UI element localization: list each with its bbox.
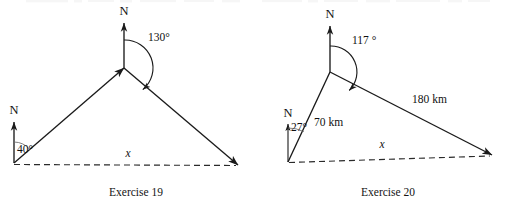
base-label-x-left: x xyxy=(124,147,131,159)
cropped-text-artifact-row xyxy=(26,0,490,2)
angle-label-117-right: 117 ° xyxy=(352,34,377,46)
caption-exercise-20: Exercise 20 xyxy=(361,186,415,198)
angle-arc-130-left xyxy=(124,40,153,90)
leg-label-70km-right: 70 km xyxy=(314,116,343,128)
diagram-canvas: N N 130° 40° x Exercise 19 N N 117 ° 27°… xyxy=(0,0,507,204)
angle-label-130-left: 130° xyxy=(148,31,170,43)
baseline-dashed-right xyxy=(289,156,490,163)
figure-pair-container: N N 130° 40° x Exercise 19 N N 117 ° 27°… xyxy=(0,0,507,204)
figure-exercise-20: N N 117 ° 27° 70 km 180 km x Exercise 20 xyxy=(283,7,492,198)
base-label-x-right: x xyxy=(378,138,385,150)
north-label-apex-right: N xyxy=(325,7,334,21)
north-label-origin-right: N xyxy=(283,106,292,120)
angle-label-27-right: 27° xyxy=(291,121,308,133)
caption-exercise-19: Exercise 19 xyxy=(109,186,163,198)
north-label-origin-left: N xyxy=(9,103,18,117)
north-label-apex-left: N xyxy=(119,4,128,18)
baseline-dashed-left xyxy=(14,165,236,166)
hyp-label-180km-right: 180 km xyxy=(412,93,447,105)
angle-label-40-left: 40° xyxy=(17,143,34,155)
figure-exercise-19: N N 130° 40° x Exercise 19 xyxy=(9,4,238,198)
vector-apex-to-terminus-left xyxy=(124,68,238,165)
